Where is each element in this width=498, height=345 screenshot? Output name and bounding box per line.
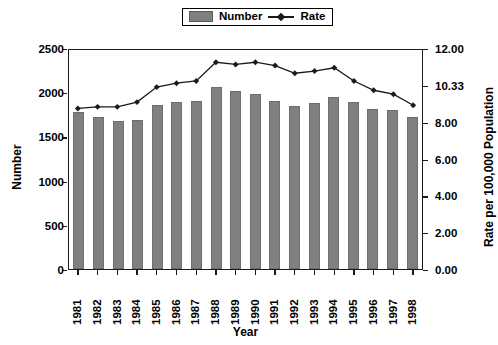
y-tick-label-left-2000: 2000: [38, 87, 64, 99]
legend-swatch-number: [189, 11, 213, 22]
y-axis-title-right: Rate per 100,000 Population: [482, 77, 496, 257]
y-tick-label-left-2500: 2500: [38, 43, 64, 55]
chart-container: Number Rate Number 05001000150020002500 …: [0, 0, 498, 345]
x-axis-labels: 1981198219831984198519861987198819891990…: [68, 279, 423, 325]
bar-1997: [387, 110, 398, 269]
x-tick-label-1982: 1982: [92, 279, 104, 325]
legend-marker-rate: [268, 12, 294, 21]
legend-label-rate: Rate: [300, 11, 325, 23]
x-tick-label-1983: 1983: [112, 279, 124, 325]
y-tick-label-right-2.00: 2.00: [435, 227, 457, 239]
bar-1996: [367, 109, 378, 269]
bar-1985: [152, 105, 163, 269]
y-tick-label-right-6.00: 6.00: [435, 154, 457, 166]
x-tick-label-1998: 1998: [407, 279, 419, 325]
bar-1993: [309, 103, 320, 269]
x-tick-1998: [412, 270, 413, 275]
x-tick-1994: [334, 270, 335, 275]
x-tick-label-1990: 1990: [250, 279, 262, 325]
y-tick-label-right-4.00: 4.00: [435, 190, 457, 202]
x-tick-label-1992: 1992: [289, 279, 301, 325]
plot-area: [68, 49, 423, 270]
y-tick-right-4.00: [423, 196, 428, 197]
x-tick-1981: [77, 270, 78, 275]
bar-1981: [73, 112, 84, 269]
bar-1988: [211, 87, 222, 269]
x-tick-1986: [176, 270, 177, 275]
x-tick-1995: [353, 270, 354, 275]
x-tick-1982: [97, 270, 98, 275]
y-tick-label-left-0: 0: [58, 264, 64, 276]
y-tick-label-left-1500: 1500: [38, 131, 64, 143]
y-tick-label-right-12.00: 12.00: [435, 43, 464, 55]
bar-1992: [289, 106, 300, 269]
x-tick-label-1987: 1987: [190, 279, 202, 325]
bar-1983: [113, 121, 124, 269]
x-tick-label-1991: 1991: [269, 279, 281, 325]
y-tick-label-right-0.00: 0.00: [435, 264, 457, 276]
x-tick-1997: [393, 270, 394, 275]
x-tick-label-1989: 1989: [230, 279, 242, 325]
x-tick-1996: [373, 270, 374, 275]
legend-label-number: Number: [219, 11, 262, 23]
x-tick-1990: [255, 270, 256, 275]
x-tick-1988: [215, 270, 216, 275]
bar-series: [69, 50, 422, 269]
x-tick-label-1997: 1997: [388, 279, 400, 325]
x-tick-1987: [196, 270, 197, 275]
bar-1987: [191, 101, 202, 269]
x-tick-label-1988: 1988: [210, 279, 222, 325]
y-tick-label-left-1000: 1000: [38, 176, 64, 188]
bar-1986: [171, 102, 182, 269]
y-tick-right-8.00: [423, 123, 428, 124]
y-tick-right-12.00: [423, 49, 428, 50]
x-tick-label-1994: 1994: [328, 279, 340, 325]
bar-1989: [230, 91, 241, 269]
x-tick-1989: [235, 270, 236, 275]
x-tick-1991: [274, 270, 275, 275]
x-tick-1983: [117, 270, 118, 275]
x-tick-label-1986: 1986: [171, 279, 183, 325]
x-tick-label-1981: 1981: [72, 279, 84, 325]
y-tick-label-right-10.33: 10.33: [435, 80, 464, 92]
bar-1984: [132, 120, 143, 269]
x-tick-label-1996: 1996: [368, 279, 380, 325]
y-axis-left: 05001000150020002500: [0, 0, 64, 345]
y-tick-right-2.00: [423, 233, 428, 234]
x-tick-label-1985: 1985: [151, 279, 163, 325]
y-tick-right-6.00: [423, 160, 428, 161]
y-tick-label-right-8.00: 8.00: [435, 117, 457, 129]
x-tick-1992: [294, 270, 295, 275]
x-axis-title: Year: [68, 325, 423, 339]
bar-1991: [269, 101, 280, 269]
x-tick-1985: [156, 270, 157, 275]
bar-1982: [93, 117, 104, 269]
x-tick-label-1993: 1993: [309, 279, 321, 325]
chart-legend: Number Rate: [182, 8, 333, 26]
bar-1995: [348, 102, 359, 269]
x-tick-label-1984: 1984: [131, 279, 143, 325]
x-tick-1984: [136, 270, 137, 275]
y-tick-right-0.00: [423, 270, 428, 271]
x-tick-label-1995: 1995: [348, 279, 360, 325]
bar-1998: [407, 117, 418, 269]
bar-1990: [250, 94, 261, 269]
y-tick-label-left-500: 500: [45, 220, 64, 232]
y-tick-right-10.33: [423, 86, 428, 87]
x-tick-1993: [314, 270, 315, 275]
bar-1994: [328, 97, 339, 269]
